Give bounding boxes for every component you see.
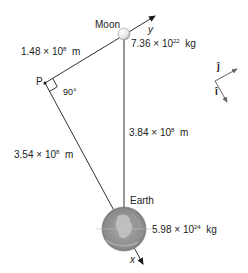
- p-moon-line: [45, 35, 124, 83]
- i-hat-label: î: [215, 86, 218, 97]
- point-p-dot: [44, 82, 47, 85]
- earth-globe: [96, 207, 152, 251]
- earth-label: Earth: [130, 195, 154, 206]
- moon-mass-label: 7.36 × 1022 kg: [131, 38, 196, 49]
- p-earth-distance-label: 3.54 × 108 m: [14, 149, 73, 160]
- j-hat-label: ĵ: [217, 61, 220, 72]
- moon-label: Moon: [95, 19, 120, 30]
- right-angle-marker: [50, 78, 58, 91]
- point-p-label: P: [36, 76, 43, 87]
- earth-mass-label: 5.98 × 1024 kg: [152, 224, 217, 235]
- earth-moon-distance-label: 3.84 × 108 m: [129, 127, 188, 138]
- y-axis-label: y: [148, 24, 153, 35]
- x-axis-label: x: [130, 254, 135, 265]
- p-moon-distance-label: 1.48 × 108 m: [21, 46, 80, 57]
- right-angle-label: 90°: [63, 87, 77, 98]
- unit-vector-diagram: [215, 69, 237, 102]
